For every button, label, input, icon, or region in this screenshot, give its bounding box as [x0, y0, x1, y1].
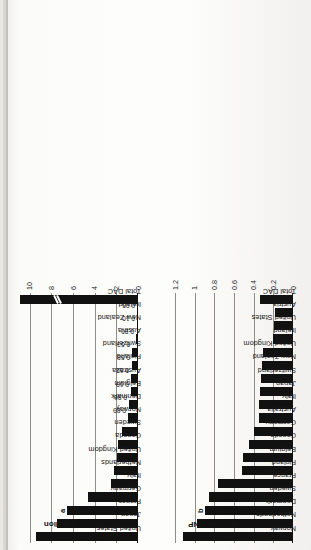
- footnote-marker: b: [196, 508, 205, 513]
- category-label: Ireland: [273, 326, 296, 335]
- category-label: Denmark: [266, 497, 296, 506]
- category-label: Italy: [127, 471, 141, 480]
- category-label: New Zealand: [253, 353, 296, 362]
- bar: [36, 532, 138, 541]
- category-label: Japan: [121, 510, 141, 519]
- axis-break-mark: [55, 295, 62, 304]
- bar-value-label: 0.89: [114, 407, 127, 414]
- bar-value-label: 0.62: [116, 367, 129, 374]
- category-label: Japan: [276, 379, 296, 388]
- bar-value-label: 0.69: [116, 381, 129, 388]
- category-label: Australia: [267, 405, 296, 414]
- axis-tick-label: 1.2: [171, 280, 180, 290]
- category-label: Germany: [111, 484, 141, 493]
- category-label: Sweden: [114, 418, 141, 427]
- axis-tick-label: 0.4: [249, 280, 258, 290]
- bar-value-label: 0.53: [117, 341, 130, 348]
- category-label: United States: [97, 524, 141, 533]
- category-label: Total DAC: [108, 287, 141, 296]
- bar-value-label: 0.20: [121, 328, 134, 335]
- bar: [183, 532, 293, 541]
- category-label: Netherlands: [256, 510, 296, 519]
- category-label: Austria: [273, 300, 296, 309]
- page-gutter-line: [6, 0, 8, 550]
- chart-percent-of-gnp: 00.20.40.60.811.2NorwayNetherlandsDenmar…: [175, 293, 311, 543]
- category-label: United States: [252, 313, 296, 322]
- category-label: Canada: [115, 431, 141, 440]
- gridline: [30, 293, 31, 543]
- bar-value-label: 0.86: [114, 394, 127, 401]
- gridline: [175, 293, 176, 543]
- category-label: Netherlands: [101, 458, 141, 467]
- category-label: Total DAC: [263, 287, 296, 296]
- category-label: Switzerland: [258, 366, 296, 375]
- category-label: Finland: [272, 458, 296, 467]
- chart-unit-label: $ Billion: [44, 520, 75, 529]
- axis-tick-label: 4: [90, 286, 99, 290]
- category-label: France: [118, 497, 141, 506]
- category-label: Canada: [270, 431, 296, 440]
- scanned-page: 0246810United StatesJapanFranceaGermanyI…: [0, 0, 311, 550]
- axis-tick-label: 1: [190, 286, 199, 290]
- axis-tick-label: 0.8: [210, 280, 219, 290]
- category-label: Sweden: [269, 484, 296, 493]
- category-label: Norway: [271, 524, 296, 533]
- axis-tick-label: 6: [69, 286, 78, 290]
- category-label: Germany: [266, 418, 296, 427]
- gridline: [195, 293, 196, 543]
- axis-tick-label: 10: [25, 282, 34, 290]
- bar-value-label: 0.05: [123, 302, 136, 309]
- category-label: United Kingdom: [88, 445, 141, 454]
- category-label: Italy: [282, 392, 296, 401]
- axis-tick-label: 0.6: [230, 280, 239, 290]
- axis-tick-label: 8: [47, 286, 56, 290]
- gridline: [51, 293, 52, 543]
- chart-unit-label: As % of GNP: [188, 520, 237, 529]
- category-label: Belgium: [269, 445, 296, 454]
- chart-dollar-billion: 0246810United StatesJapanFranceaGermanyI…: [20, 293, 200, 543]
- bar-value-label: 0.58: [117, 354, 130, 361]
- category-label: France: [273, 471, 296, 480]
- category-label: United Kingdom: [243, 339, 296, 348]
- bar-value-label: 0.10: [122, 315, 135, 322]
- footnote-marker: a: [58, 509, 67, 513]
